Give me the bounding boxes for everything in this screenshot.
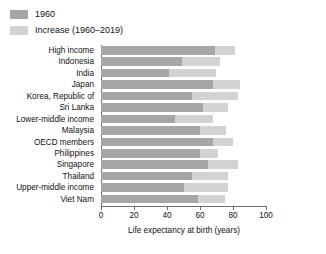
bar-segment-1960	[101, 183, 184, 192]
x-axis-tick-label: 100	[254, 211, 278, 220]
y-axis-label: Korea, Republic of	[0, 91, 98, 102]
chart-legend: 1960 Increase (1960–2019)	[10, 8, 123, 40]
legend-swatch-1960	[10, 10, 28, 19]
bar-segment-1960	[101, 149, 200, 158]
x-axis-title: Life expectancy at birth (years)	[101, 226, 267, 235]
bar-segment-increase	[213, 138, 233, 147]
legend-label-increase: Increase (1960–2019)	[35, 26, 123, 35]
bars-container	[101, 45, 266, 205]
bar-row	[101, 68, 266, 79]
bar-segment-1960	[101, 126, 200, 135]
bar-row	[101, 56, 266, 67]
bar-segment-1960	[101, 103, 203, 112]
bar-segment-1960	[101, 138, 213, 147]
bar-row	[101, 45, 266, 56]
x-axis-tick-label: 40	[155, 211, 179, 220]
x-axis-tick-label: 20	[122, 211, 146, 220]
stacked-bar	[101, 138, 233, 147]
bar-segment-increase	[169, 69, 217, 78]
x-axis-tick	[134, 206, 135, 210]
bar-row	[101, 159, 266, 170]
x-axis-tick-label: 60	[188, 211, 212, 220]
stacked-bar	[101, 149, 218, 158]
bar-segment-increase	[175, 115, 213, 124]
bar-segment-1960	[101, 115, 175, 124]
bar-segment-increase	[182, 57, 220, 66]
bar-row	[101, 114, 266, 125]
bar-row	[101, 102, 266, 113]
y-axis-label: Viet Nam	[0, 194, 98, 205]
bar-row	[101, 125, 266, 136]
legend-item-increase: Increase (1960–2019)	[10, 24, 123, 37]
x-axis-tick	[101, 206, 102, 210]
x-axis-tick	[233, 206, 234, 210]
x-axis-tick	[167, 206, 168, 210]
stacked-bar	[101, 103, 228, 112]
y-axis-label: Singapore	[0, 159, 98, 170]
x-axis-tick	[266, 206, 267, 210]
x-axis-tick	[200, 206, 201, 210]
bar-segment-increase	[213, 80, 239, 89]
bar-segment-1960	[101, 57, 182, 66]
y-axis-label: Lower-middle income	[0, 114, 98, 125]
y-axis-label: Upper-middle income	[0, 182, 98, 193]
stacked-bar	[101, 115, 213, 124]
x-axis-tick-label: 80	[221, 211, 245, 220]
stacked-bar	[101, 183, 228, 192]
bar-segment-1960	[101, 172, 192, 181]
y-axis-label: India	[0, 68, 98, 79]
y-axis-label: Malaysia	[0, 125, 98, 136]
bar-segment-1960	[101, 69, 169, 78]
plot-area: High incomeIndonesiaIndiaJapanKorea, Rep…	[0, 45, 326, 254]
bar-row	[101, 148, 266, 159]
stacked-bar	[101, 92, 238, 101]
x-axis-tick-label: 0	[89, 211, 113, 220]
y-axis-label: High income	[0, 45, 98, 56]
bar-segment-increase	[192, 92, 238, 101]
stacked-bar	[101, 160, 238, 169]
stacked-bar	[101, 57, 220, 66]
bar-segment-increase	[215, 46, 235, 55]
y-axis-label: Philippines	[0, 148, 98, 159]
stacked-bar	[101, 69, 216, 78]
bar-segment-1960	[101, 46, 215, 55]
bar-segment-increase	[198, 195, 224, 204]
bar-segment-1960	[101, 160, 208, 169]
stacked-bar	[101, 172, 228, 181]
bar-row	[101, 171, 266, 182]
legend-swatch-increase	[10, 26, 28, 35]
stacked-bar	[101, 195, 225, 204]
bar-row	[101, 182, 266, 193]
y-axis-label: Japan	[0, 79, 98, 90]
y-axis-label: Thailand	[0, 171, 98, 182]
bar-segment-1960	[101, 80, 213, 89]
bar-segment-1960	[101, 92, 192, 101]
bar-row	[101, 137, 266, 148]
y-axis-label: Sri Lanka	[0, 102, 98, 113]
stacked-bar	[101, 126, 226, 135]
stacked-bar	[101, 46, 235, 55]
bar-segment-increase	[208, 160, 238, 169]
legend-label-1960: 1960	[35, 10, 55, 19]
bar-segment-increase	[200, 149, 218, 158]
y-axis-label: OECD members	[0, 137, 98, 148]
bar-row	[101, 91, 266, 102]
bar-row	[101, 79, 266, 90]
life-expectancy-bar-chart: 1960 Increase (1960–2019) High incomeInd…	[0, 0, 326, 254]
x-axis-line	[101, 206, 267, 207]
bar-segment-1960	[101, 195, 198, 204]
legend-item-1960: 1960	[10, 8, 123, 21]
bar-row	[101, 194, 266, 205]
bar-segment-increase	[192, 172, 228, 181]
stacked-bar	[101, 80, 240, 89]
y-axis-category-labels: High incomeIndonesiaIndiaJapanKorea, Rep…	[0, 45, 98, 205]
bar-segment-increase	[203, 103, 228, 112]
bar-segment-increase	[184, 183, 229, 192]
y-axis-label: Indonesia	[0, 56, 98, 67]
bar-segment-increase	[200, 126, 226, 135]
